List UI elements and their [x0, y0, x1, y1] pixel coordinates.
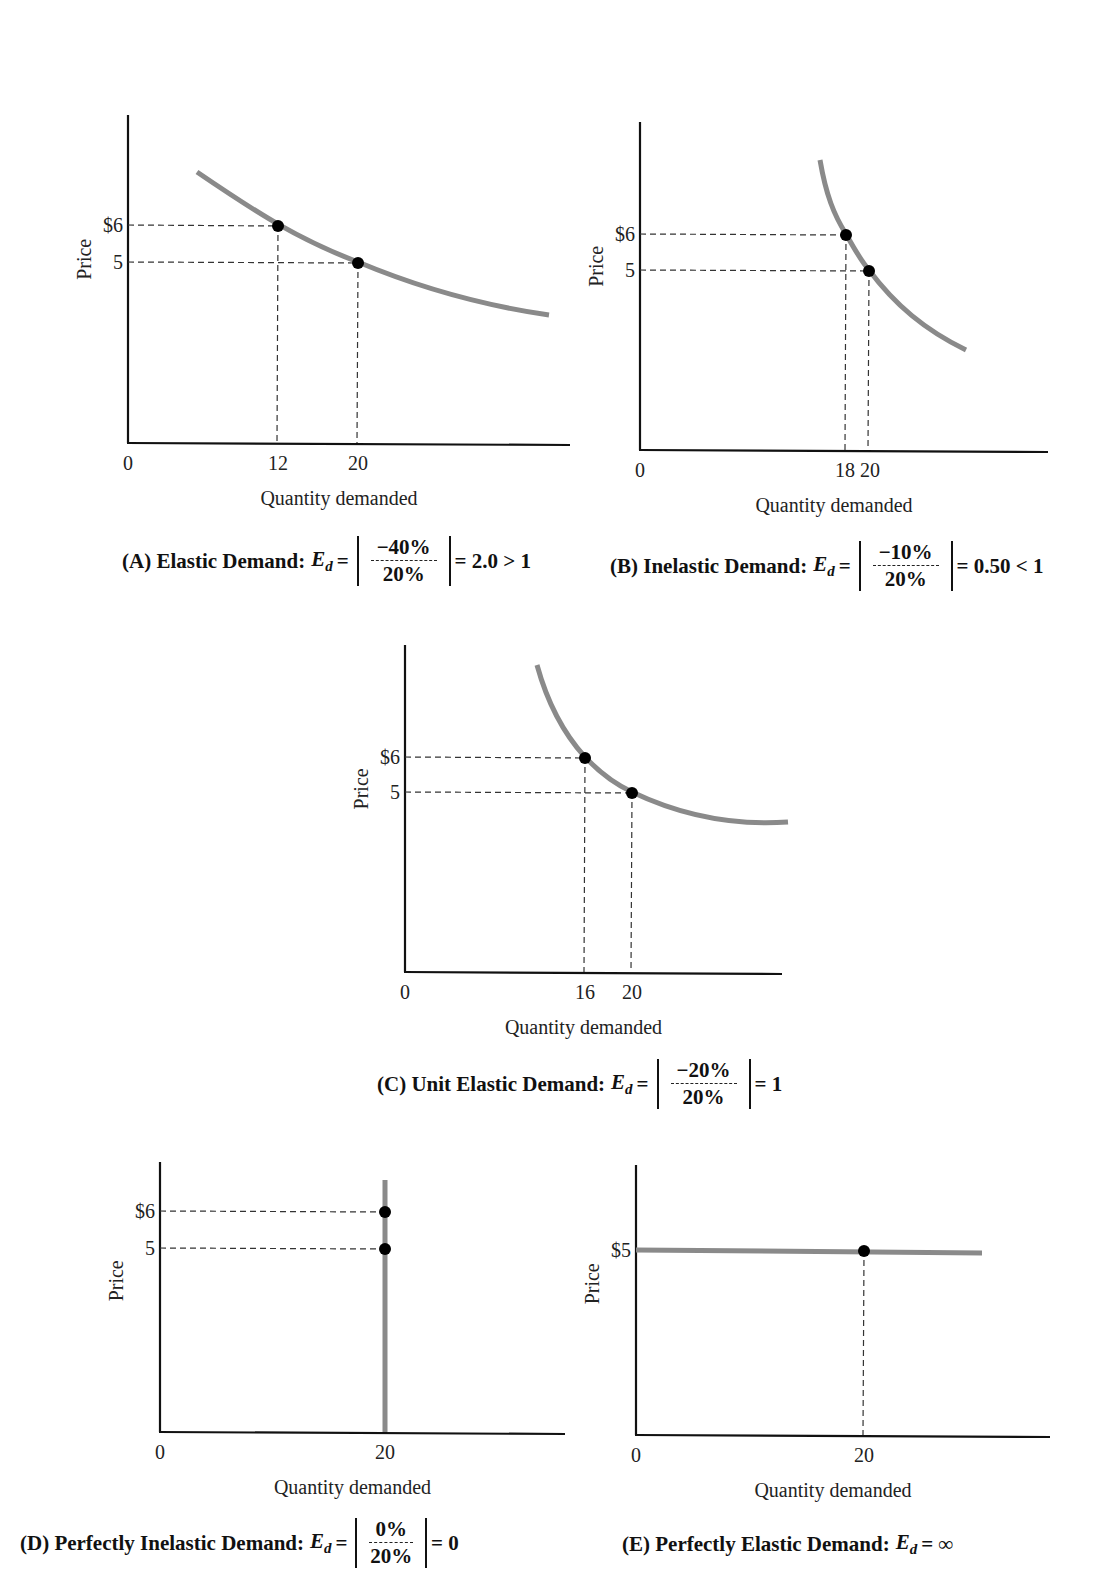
- denominator: 20%: [683, 1084, 725, 1108]
- demand-curve: [820, 160, 966, 350]
- demand-point: [272, 220, 284, 232]
- denominator: 20%: [383, 561, 425, 585]
- x-tick-label: 16: [575, 981, 595, 1003]
- elasticity-symbol: Ed: [310, 1529, 332, 1557]
- equals-sign: =: [839, 554, 851, 579]
- caption-c-label: (C) Unit Elastic Demand:: [377, 1072, 605, 1097]
- fraction: −20% 20%: [671, 1060, 737, 1108]
- x-axis-title: Quantity demanded: [274, 1476, 431, 1499]
- elasticity-symbol: Ed: [896, 1530, 918, 1558]
- price-guide-line: [160, 1248, 385, 1249]
- y-tick-label: 5: [625, 259, 635, 281]
- demand-point: [840, 229, 852, 241]
- y-tick-label: $6: [103, 214, 123, 236]
- quantity-guide-line: [357, 262, 358, 443]
- quantity-guide-line: [277, 225, 278, 443]
- absolute-value: 0% 20%: [355, 1518, 427, 1568]
- caption-b: (B) Inelastic Demand: Ed = −10% 20% = 0.…: [610, 541, 1044, 591]
- equals-sign: =: [336, 1531, 348, 1556]
- denominator: 20%: [370, 1543, 412, 1567]
- y-tick-label: $5: [611, 1239, 631, 1261]
- fraction: 0% 20%: [369, 1519, 413, 1567]
- fraction: −10% 20%: [873, 542, 939, 590]
- y-tick-label: 5: [145, 1237, 155, 1259]
- demand-point: [379, 1206, 391, 1218]
- origin-label: 0: [123, 452, 133, 474]
- absolute-value: −20% 20%: [657, 1059, 751, 1109]
- x-axis-title: Quantity demanded: [754, 1479, 911, 1502]
- elasticity-symbol: Ed: [311, 547, 333, 575]
- elasticity-symbol: Ed: [813, 552, 835, 580]
- x-tick-label: 20: [854, 1444, 874, 1466]
- y-axis-title: Price: [350, 768, 372, 809]
- y-tick-label: $6: [380, 746, 400, 768]
- y-tick-label: $6: [135, 1200, 155, 1222]
- price-guide-line: [640, 234, 846, 235]
- origin-label: 0: [631, 1444, 641, 1466]
- caption-d-result: = 0: [431, 1531, 459, 1556]
- fraction: −40% 20%: [371, 537, 437, 585]
- x-tick-label: 20: [348, 452, 368, 474]
- x-axis: [635, 1435, 1050, 1437]
- caption-c-result: = 1: [755, 1072, 783, 1097]
- caption-e: (E) Perfectly Elastic Demand: Ed = ∞: [622, 1530, 957, 1558]
- caption-a-result: = 2.0 > 1: [455, 549, 531, 574]
- x-tick-label: 20: [622, 981, 642, 1003]
- demand-curve: [537, 665, 788, 823]
- quantity-guide-line: [845, 234, 846, 450]
- numerator: −20%: [671, 1060, 737, 1084]
- caption-b-label: (B) Inelastic Demand:: [610, 554, 807, 579]
- absolute-value: −10% 20%: [859, 541, 953, 591]
- demand-curve: [197, 172, 549, 315]
- demand-elasticity-figure: 0$651220Quantity demandedPrice 0$6518 20…: [0, 0, 1111, 1593]
- origin-label: 0: [635, 459, 645, 481]
- demand-point: [626, 787, 638, 799]
- demand-point: [352, 257, 364, 269]
- equals-sign: =: [337, 549, 349, 574]
- panel-e-perfectly-elastic-chart: 0$520Quantity demandedPrice: [581, 1165, 1050, 1502]
- x-axis: [159, 1432, 565, 1434]
- caption-d-label: (D) Perfectly Inelastic Demand:: [20, 1531, 304, 1556]
- caption-c: (C) Unit Elastic Demand: Ed = −20% 20% =…: [377, 1059, 782, 1109]
- price-guide-line: [640, 270, 869, 271]
- caption-a-label: (A) Elastic Demand:: [122, 549, 305, 574]
- x-tick-label: 12: [268, 452, 288, 474]
- demand-curve: [636, 1250, 982, 1253]
- x-axis-title: Quantity demanded: [505, 1016, 662, 1039]
- y-axis-title: Price: [105, 1260, 127, 1301]
- price-guide-line: [128, 225, 278, 226]
- x-axis: [639, 450, 1048, 452]
- numerator: 0%: [369, 1519, 413, 1543]
- y-axis-title: Price: [73, 239, 95, 280]
- price-guide-line: [128, 262, 358, 263]
- quantity-guide-line: [863, 1250, 864, 1435]
- demand-point: [863, 265, 875, 277]
- quantity-guide-line: [584, 757, 585, 972]
- origin-label: 0: [155, 1441, 165, 1463]
- x-tick-label: 20: [375, 1441, 395, 1463]
- numerator: −10%: [873, 542, 939, 566]
- x-axis-title: Quantity demanded: [755, 494, 912, 517]
- demand-point: [579, 752, 591, 764]
- demand-point: [858, 1245, 870, 1257]
- demand-point: [379, 1243, 391, 1255]
- y-axis-title: Price: [585, 246, 607, 287]
- x-axis: [127, 443, 570, 445]
- caption-d: (D) Perfectly Inelastic Demand: Ed = 0% …: [20, 1518, 459, 1568]
- y-tick-label: 5: [390, 781, 400, 803]
- x-tick-label: 18 20: [835, 459, 880, 481]
- caption-a: (A) Elastic Demand: Ed = −40% 20% = 2.0 …: [122, 536, 531, 586]
- origin-label: 0: [400, 981, 410, 1003]
- denominator: 20%: [885, 566, 927, 590]
- price-guide-line: [160, 1211, 385, 1212]
- caption-e-label: (E) Perfectly Elastic Demand:: [622, 1532, 890, 1557]
- panel-b-inelastic-chart: 0$6518 20Quantity demandedPrice: [585, 122, 1048, 517]
- absolute-value: −40% 20%: [357, 536, 451, 586]
- y-tick-label: 5: [113, 251, 123, 273]
- caption-b-result: = 0.50 < 1: [957, 554, 1044, 579]
- quantity-guide-line: [868, 270, 869, 450]
- equals-sign: =: [637, 1072, 649, 1097]
- price-guide-line: [405, 792, 632, 793]
- panel-c-unit-elastic-chart: 0$651620Quantity demandedPrice: [350, 645, 788, 1039]
- x-axis-title: Quantity demanded: [260, 487, 417, 510]
